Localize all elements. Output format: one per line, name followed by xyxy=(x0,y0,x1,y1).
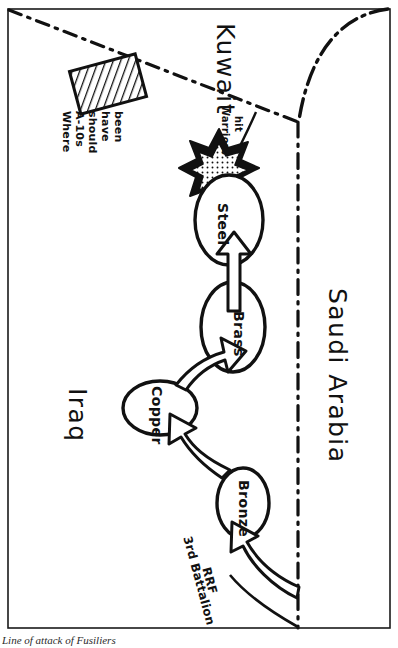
a10-note-line-1: Where xyxy=(60,111,72,152)
country-label-kuwait: Kuwait xyxy=(211,23,240,115)
a10-note-line-4: have xyxy=(99,111,111,142)
warriors-hit-line-2: hit xyxy=(233,116,244,132)
objective-label-copper: Copper xyxy=(149,386,165,445)
warriors-hit-line-1: Warriors xyxy=(220,105,231,155)
objective-label-bronze: Bronze xyxy=(236,480,252,537)
country-label-iraq: Iraq xyxy=(63,388,92,442)
hand-drawn-map: Iraq Kuwait Saudi Arabia Steel Brass Cop… xyxy=(0,0,398,648)
country-label-saudi-arabia: Saudi Arabia xyxy=(323,288,352,463)
figure-caption: Line of attack of Fusiliers xyxy=(2,634,302,646)
a10-note-line-2: A-10s xyxy=(73,111,85,147)
objective-label-steel: Steel xyxy=(215,203,231,246)
objective-label-brass: Brass xyxy=(231,311,247,357)
a10-note-line-5: been xyxy=(112,111,124,142)
a10-note-line-3: should xyxy=(86,111,98,154)
figure-page: Iraq Kuwait Saudi Arabia Steel Brass Cop… xyxy=(0,0,398,648)
